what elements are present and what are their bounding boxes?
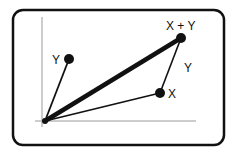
vector-diagram: Y X X + Y Y — [0, 0, 235, 155]
point-sum — [176, 33, 186, 43]
point-x — [155, 88, 165, 98]
label-edge-y: Y — [184, 61, 192, 75]
origin-point — [42, 118, 48, 124]
label-y: Y — [52, 53, 60, 67]
label-x: X — [168, 87, 176, 101]
label-sum: X + Y — [166, 19, 195, 33]
point-y — [64, 54, 74, 64]
